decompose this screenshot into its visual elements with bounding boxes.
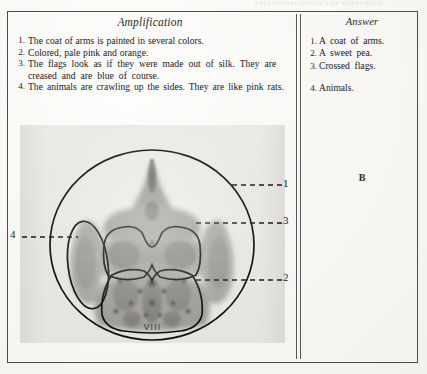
inkblot-figure xyxy=(20,125,285,343)
list-item: 2. A sweet pea. xyxy=(306,47,418,59)
column-divider xyxy=(296,14,301,359)
rorschach-plate-image xyxy=(20,125,285,343)
leader-label-2: 2 xyxy=(283,272,289,283)
list-item: 3. The flags look as if they were made o… xyxy=(14,58,286,81)
running-head: PSYCHODIAGNOSTICS OF RORSCHACH xyxy=(255,0,425,9)
list-item: 3. Crossed flags. xyxy=(306,60,418,72)
list-item-number: 3. xyxy=(14,58,25,70)
list-item-text: The animals are crawling up the sides. T… xyxy=(28,81,284,92)
answer-heading: Answer xyxy=(306,16,418,27)
leader-label-3: 3 xyxy=(283,215,289,226)
list-item-text: A sweet pea. xyxy=(319,47,372,58)
leader-label-1: 1 xyxy=(283,178,289,189)
list-item-number: 2. xyxy=(306,47,317,59)
list-item: 4. The animals are crawling up the sides… xyxy=(14,81,286,93)
answer-list: 1. A coat of arms. 2. A sweet pea. 3. Cr… xyxy=(306,35,418,95)
list-item-text: Colored, pale pink and orange. xyxy=(28,47,148,58)
scanned-page: PSYCHODIAGNOSTICS OF RORSCHACH Amplifica… xyxy=(0,0,427,374)
list-item-text: A coat of arms. xyxy=(319,35,384,46)
answer-column: Answer 1. A coat of arms. 2. A sweet pea… xyxy=(306,16,418,95)
list-item-number: 1. xyxy=(14,35,25,47)
leader-label-4: 4 xyxy=(10,229,16,240)
divider-rule-right xyxy=(300,14,301,359)
amplification-heading: Amplification xyxy=(14,16,286,28)
list-item-text: Crossed flags. xyxy=(319,60,376,71)
plate-roman-numeral: VIII xyxy=(20,322,285,332)
list-item-text: The coat of arms is painted in several c… xyxy=(28,35,204,46)
list-item-text: The flags look as if they were made out … xyxy=(28,58,276,81)
list-item: 1. A coat of arms. xyxy=(306,35,418,47)
list-item-text: Animals. xyxy=(319,82,354,93)
list-item: 4. Animals. xyxy=(306,82,418,94)
list-item-number: 1. xyxy=(306,35,317,47)
list-item-number: 3. xyxy=(306,60,317,72)
list-item-number: 4. xyxy=(306,82,317,94)
list-item-number: 4. xyxy=(14,81,25,93)
list-item-number: 2. xyxy=(14,47,25,59)
list-item: 2. Colored, pale pink and orange. xyxy=(14,47,286,59)
divider-rule-left xyxy=(296,14,297,359)
amplification-list: 1. The coat of arms is painted in severa… xyxy=(14,35,286,93)
plate-letter-b: B xyxy=(306,172,418,183)
list-item: 1. The coat of arms is painted in severa… xyxy=(14,35,286,47)
amplification-column: Amplification 1. The coat of arms is pai… xyxy=(14,16,286,93)
